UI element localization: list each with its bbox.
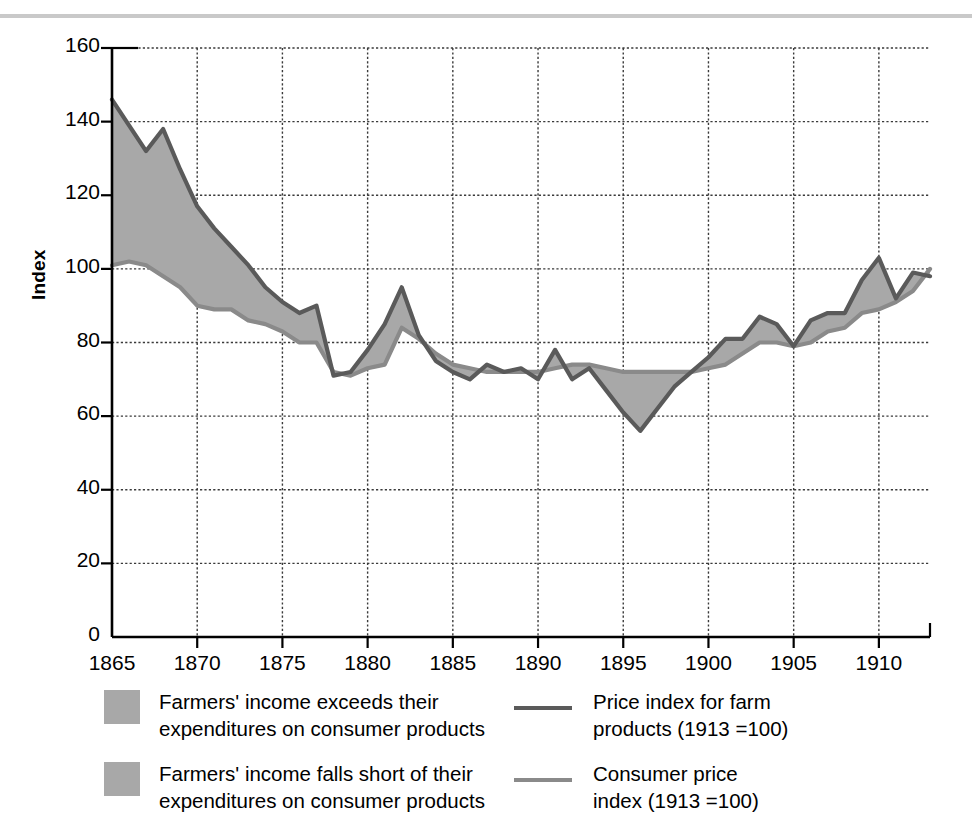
chart-legend: Farmers' income exceeds their expenditur… xyxy=(0,686,972,834)
y-tick-label: 100 xyxy=(40,254,100,278)
y-tick-label: 140 xyxy=(40,107,100,131)
legend-area-swatch xyxy=(104,762,140,796)
legend-label: Farmers' income falls short of their exp… xyxy=(159,760,485,814)
x-tick-label: 1905 xyxy=(761,651,827,675)
legend-item: Farmers' income exceeds their expenditur… xyxy=(104,688,485,742)
x-tick-label: 1875 xyxy=(249,651,315,675)
legend-item: Farmers' income falls short of their exp… xyxy=(104,760,485,814)
income-gap-area xyxy=(112,100,930,431)
x-tick-label: 1880 xyxy=(335,651,401,675)
legend-item: Price index for farm products (1913 =100… xyxy=(512,688,788,742)
x-tick-label: 1910 xyxy=(846,651,912,675)
legend-label: Consumer price index (1913 =100) xyxy=(593,760,759,814)
x-tick-label: 1890 xyxy=(505,651,571,675)
legend-line-swatch xyxy=(512,762,574,796)
y-tick-label: 120 xyxy=(40,180,100,204)
plot-area: Index 020406080100120140160 186518701875… xyxy=(0,0,972,680)
x-tick-label: 1865 xyxy=(79,651,145,675)
x-tick-label: 1900 xyxy=(675,651,741,675)
x-tick-label: 1895 xyxy=(590,651,656,675)
chart-canvas xyxy=(0,0,972,680)
legend-area-swatch xyxy=(104,690,140,724)
legend-label: Price index for farm products (1913 =100… xyxy=(593,688,788,742)
y-tick-label: 0 xyxy=(40,622,100,646)
x-tick-label: 1885 xyxy=(420,651,486,675)
legend-label: Farmers' income exceeds their expenditur… xyxy=(159,688,485,742)
y-tick-label: 40 xyxy=(40,475,100,499)
legend-item: Consumer price index (1913 =100) xyxy=(512,760,759,814)
legend-line-swatch xyxy=(512,690,574,724)
y-tick-label: 160 xyxy=(40,33,100,57)
y-tick-label: 20 xyxy=(40,548,100,572)
y-tick-label: 80 xyxy=(40,328,100,352)
axis-lines xyxy=(101,48,930,648)
chart-page: s f Index 020406080100120140160 18651870… xyxy=(0,0,972,834)
y-tick-label: 60 xyxy=(40,401,100,425)
x-tick-label: 1870 xyxy=(164,651,230,675)
